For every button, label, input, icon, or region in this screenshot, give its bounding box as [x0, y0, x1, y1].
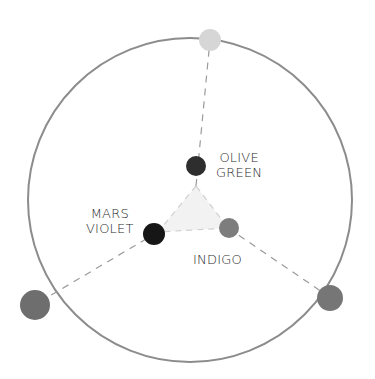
label-mars-violet-line2: VIOLET: [86, 221, 134, 236]
label-olive-green-line2: GREEN: [216, 165, 262, 180]
spoke-2: [228, 228, 328, 296]
label-indigo-line1: INDIGO: [193, 252, 242, 267]
indigo-swatch: [219, 218, 239, 238]
label-mars-violet: MARS VIOLET: [86, 206, 134, 236]
dashed-spokes: [36, 40, 328, 304]
outer-bottom-left-swatch: [20, 290, 50, 320]
label-olive-green: OLIVE GREEN: [216, 150, 262, 180]
spoke-1: [36, 232, 158, 304]
color-wheel-diagram: OLIVE GREEN MARS VIOLET INDIGO: [0, 0, 375, 379]
label-indigo: INDIGO: [193, 252, 242, 267]
inner-mixing-triangle: [158, 186, 228, 232]
label-olive-green-line1: OLIVE: [216, 150, 262, 165]
outer-top-swatch: [199, 29, 221, 51]
outer-bottom-right-swatch: [317, 285, 343, 311]
mars-violet-swatch: [143, 223, 165, 245]
wheel-graphic: [0, 0, 375, 379]
outer-swatches: [20, 29, 343, 320]
olive-green-swatch: [186, 156, 206, 176]
label-mars-violet-line1: MARS: [86, 206, 134, 221]
